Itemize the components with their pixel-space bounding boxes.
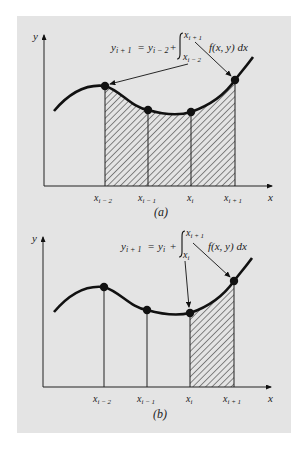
x-axis-label: x	[267, 191, 273, 203]
svg-text:f(x, y) dx: f(x, y) dx	[209, 41, 248, 54]
formula-b: yi + 1 = yi + xi + 1 xi f(x, y) dx	[120, 227, 247, 262]
caption-b: (b)	[153, 407, 167, 421]
shaded-area-a	[105, 60, 235, 186]
svg-text:xi + 1: xi + 1	[222, 393, 241, 406]
svg-text:xi − 2: xi − 2	[92, 393, 112, 406]
svg-text:yi + 1: yi + 1	[120, 240, 142, 254]
svg-text:+: +	[170, 240, 176, 252]
svg-text:xi + 1: xi + 1	[185, 227, 204, 240]
svg-text:xi − 2: xi − 2	[93, 192, 113, 205]
point-marker	[101, 82, 109, 90]
svg-text:f(x, y) dx: f(x, y) dx	[208, 240, 247, 253]
svg-text:yi + 1: yi + 1	[110, 41, 132, 55]
svg-text:=: =	[138, 41, 144, 53]
point-marker	[186, 309, 194, 317]
point-marker	[143, 306, 151, 314]
svg-text:xi: xi	[186, 192, 193, 205]
svg-text:+: +	[170, 41, 176, 53]
formula-a: yi + 1 = yi − 2 + xi + 1 xi − 2 f(x, y) …	[110, 29, 248, 64]
panel-a: y x yi + 1 = yi − 2 + xi + 1 xi − 2 f(x,…	[32, 29, 273, 219]
svg-text:xi: xi	[182, 249, 189, 262]
panel-b: y x yi + 1 = yi + xi + 1 xi f(x, y) dx x…	[31, 227, 273, 421]
x-axis-label: x	[267, 392, 273, 404]
svg-text:xi + 1: xi + 1	[223, 192, 242, 205]
pointer-arrow	[185, 261, 189, 307]
svg-text:xi + 1: xi + 1	[183, 29, 202, 42]
svg-text:yi: yi	[157, 240, 165, 254]
svg-text:xi − 2: xi − 2	[182, 51, 202, 64]
point-marker	[231, 76, 239, 84]
svg-text:xi − 1: xi − 1	[136, 393, 155, 406]
caption-a: (a)	[154, 205, 168, 219]
pointer-arrow	[110, 64, 188, 84]
shaded-area-b	[190, 260, 234, 387]
point-marker	[100, 283, 108, 291]
point-marker	[187, 108, 195, 116]
svg-text:xi − 1: xi − 1	[137, 192, 156, 205]
y-axis-label: y	[32, 30, 38, 42]
point-marker	[144, 106, 152, 114]
integration-diagram: y x yi + 1 = yi − 2 + xi + 1 xi − 2 f(x,…	[0, 0, 306, 459]
svg-text:xi: xi	[185, 393, 192, 406]
svg-text:yi − 2: yi − 2	[147, 41, 169, 55]
svg-text:=: =	[148, 240, 154, 252]
y-axis-label: y	[31, 232, 37, 244]
point-marker	[230, 277, 238, 285]
